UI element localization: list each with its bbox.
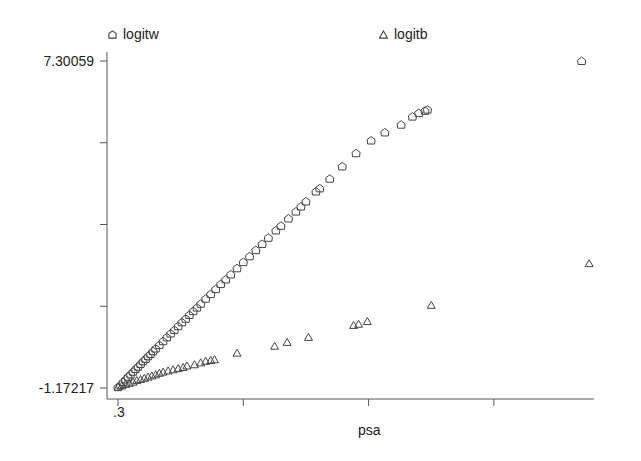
logitw-point bbox=[381, 128, 389, 136]
logitb-point bbox=[210, 356, 218, 363]
logitw-point bbox=[578, 57, 586, 65]
triangle-marker-icon bbox=[379, 30, 388, 39]
logitb-point bbox=[427, 301, 435, 308]
logitb-point bbox=[233, 349, 241, 356]
legend-item-logitw: logitw bbox=[108, 26, 159, 42]
logitw-point bbox=[367, 137, 375, 145]
logitw-point bbox=[292, 208, 300, 216]
logitw-point bbox=[352, 149, 360, 157]
logitb-point bbox=[585, 260, 593, 267]
legend-item-logitb: logitb bbox=[379, 26, 427, 42]
logitb-point bbox=[271, 342, 279, 349]
logitw-point bbox=[132, 365, 140, 373]
logitb-point bbox=[363, 318, 371, 325]
pentagon-marker-icon bbox=[108, 30, 117, 39]
logitb-point bbox=[283, 338, 291, 345]
logitw-point bbox=[326, 175, 334, 183]
data-points bbox=[114, 57, 593, 391]
y-tick-label-top: 7.30059 bbox=[4, 53, 94, 69]
logitw-point bbox=[338, 162, 346, 170]
logitw-point bbox=[264, 234, 272, 242]
x-tick-label-first: .3 bbox=[113, 404, 125, 420]
logitw-point bbox=[284, 214, 292, 222]
legend-label: logitb bbox=[394, 26, 427, 42]
scatter-plot bbox=[0, 0, 641, 461]
axes bbox=[100, 52, 594, 406]
logitw-point bbox=[397, 121, 405, 129]
logitw-point bbox=[124, 373, 132, 381]
x-axis-title: psa bbox=[358, 422, 381, 438]
y-tick-label-bottom: -1.17217 bbox=[4, 380, 94, 396]
logitw-point bbox=[272, 226, 280, 234]
legend-label: logitw bbox=[123, 26, 159, 42]
logitb-point bbox=[304, 333, 312, 340]
logitw-point bbox=[139, 357, 147, 365]
